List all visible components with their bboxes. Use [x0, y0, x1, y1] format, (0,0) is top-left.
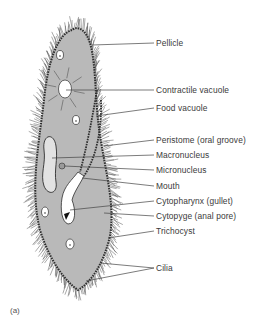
cilium [79, 289, 80, 300]
cilium [31, 142, 38, 143]
label-cytopharynx: Cytopharynx (gullet) [156, 196, 233, 206]
cilium [75, 17, 78, 28]
cilium [105, 159, 119, 162]
cilium [25, 162, 36, 164]
cilium [84, 18, 85, 31]
cilium [69, 24, 70, 31]
cilium [105, 165, 116, 167]
cilium [90, 34, 94, 44]
cilium [28, 183, 35, 188]
figure-label: (a) [10, 306, 20, 315]
cilium [27, 208, 36, 218]
cilium [100, 131, 107, 135]
cilium [110, 197, 121, 204]
cilium [27, 159, 37, 162]
cilium [31, 136, 39, 138]
cilium [34, 124, 41, 126]
cilium [23, 173, 36, 174]
cilium [105, 252, 110, 260]
cilium [97, 269, 101, 279]
label-macronucleus: Macronucleus [156, 150, 209, 160]
contractile-vacuole-shape [59, 80, 72, 98]
cilium [111, 230, 119, 235]
cilium [26, 176, 36, 177]
cilium [83, 18, 84, 31]
cilium [48, 258, 52, 271]
cilium [108, 184, 120, 187]
cilium [98, 117, 109, 124]
cilium [29, 120, 41, 124]
cilium [52, 49, 53, 56]
cilium [50, 264, 55, 276]
cilium [82, 287, 84, 294]
label-pellicle: Pellicle [156, 38, 183, 48]
label-mouth: Mouth [156, 181, 180, 191]
cilium [74, 23, 75, 29]
label-food-vacuole: Food vacuole [156, 103, 207, 113]
label-cytopyge: Cytopyge (anal pore) [156, 211, 236, 221]
macronucleus-shape [43, 137, 57, 193]
label-contractile-vacuole: Contractile vacuole [156, 85, 229, 95]
cilium [103, 147, 111, 151]
label-micronucleus: Micronucleus [156, 165, 207, 175]
label-trichocyst: Trichocyst [156, 226, 195, 236]
label-cilia: Cilia [156, 263, 173, 273]
label-peristome: Peristome (oral groove) [156, 135, 246, 145]
